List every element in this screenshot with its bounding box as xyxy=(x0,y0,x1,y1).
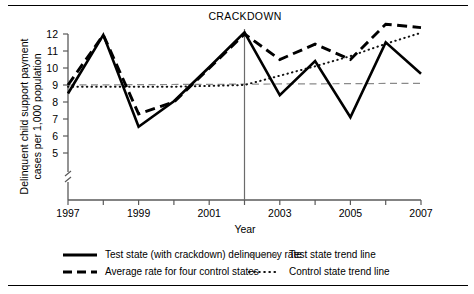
legend-swatch-solid-line xyxy=(62,250,98,260)
x-tick-label-2003: 2003 xyxy=(260,208,300,219)
legend-item-test-state-rate: Test state (with crackdown) delinquency … xyxy=(62,249,230,260)
legend-label-test-state-trend: Test state trend line xyxy=(289,249,376,260)
legend-swatch-dotted-line xyxy=(246,267,282,277)
legend-swatch-thin-dashed-line xyxy=(246,250,282,260)
x-tick-label-2007: 2007 xyxy=(401,208,441,219)
y-tick-marks xyxy=(63,34,68,153)
x-tick-label-2005: 2005 xyxy=(330,208,370,219)
x-tick-label-1997: 1997 xyxy=(48,208,88,219)
legend-swatch-dashed-line xyxy=(62,267,98,277)
y-axis-title: Delinquent child support payment cases p… xyxy=(18,37,43,197)
chart-figure: CRACKDOWN xyxy=(0,0,474,294)
x-axis-title: Year xyxy=(234,224,255,235)
legend-item-control-state-trend: Control state trend line xyxy=(246,266,462,277)
legend-label-control-state-trend: Control state trend line xyxy=(289,266,390,277)
x-tick-label-2001: 2001 xyxy=(189,208,229,219)
y-axis-break-icon xyxy=(65,171,71,182)
x-tick-label-1999: 1999 xyxy=(119,208,159,219)
legend-label-average-control-states: Average rate for four control states xyxy=(105,266,259,277)
legend-item-average-control-states: Average rate for four control states xyxy=(62,266,230,277)
legend-item-test-state-trend: Test state trend line xyxy=(246,249,462,260)
x-tick-marks xyxy=(68,200,421,205)
chart-legend: Test state (with crackdown) delinquency … xyxy=(62,246,462,280)
